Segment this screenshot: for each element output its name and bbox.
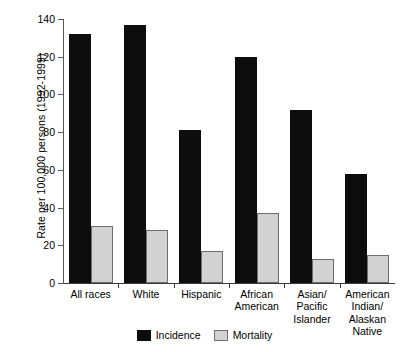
plot-area: 020406080100120140 — [63, 19, 395, 283]
y-tick-mark — [58, 57, 64, 58]
bar-mortality — [91, 226, 113, 283]
bar-incidence — [345, 174, 367, 283]
y-tick-mark — [58, 94, 64, 95]
y-tick-label: 120 — [37, 50, 55, 64]
bar-mortality — [312, 259, 334, 284]
y-tick-label: 40 — [43, 201, 55, 215]
legend-swatch-mortality — [214, 330, 228, 341]
bar-incidence — [179, 130, 201, 283]
y-tick-mark — [58, 19, 64, 20]
bar-mortality — [367, 255, 389, 283]
chart-legend: IncidenceMortality — [0, 329, 409, 341]
bar-mortality — [146, 230, 168, 283]
bar-incidence — [290, 110, 312, 283]
bar-mortality — [257, 213, 279, 283]
x-axis-label: Hispanic — [174, 288, 229, 300]
y-tick-mark — [58, 283, 64, 284]
y-tick-label: 80 — [43, 125, 55, 139]
legend-item-mortality: Mortality — [214, 329, 273, 341]
y-axis-line — [63, 19, 64, 284]
y-tick-mark — [58, 245, 64, 246]
bar-incidence — [69, 34, 91, 283]
x-axis-label: All races — [63, 288, 118, 300]
x-axis-label: Asian/ Pacific Islander — [284, 288, 339, 325]
y-tick-mark — [58, 132, 64, 133]
bar-incidence — [235, 57, 257, 283]
y-tick-label: 20 — [43, 238, 55, 252]
legend-swatch-incidence — [137, 330, 151, 341]
y-tick-label: 0 — [49, 276, 55, 290]
legend-label: Incidence — [156, 329, 201, 341]
bar-incidence — [124, 25, 146, 283]
y-tick-label: 60 — [43, 163, 55, 177]
y-tick-label: 100 — [37, 87, 55, 101]
legend-label: Mortality — [233, 329, 273, 341]
y-tick-mark — [58, 208, 64, 209]
x-axis-label: White — [118, 288, 173, 300]
bar-mortality — [201, 251, 223, 283]
bar-chart: Rate per 100,000 persons (1992-1999) 020… — [0, 0, 409, 352]
y-tick-mark — [58, 170, 64, 171]
legend-item-incidence: Incidence — [137, 329, 201, 341]
x-axis-label: African American — [229, 288, 284, 313]
y-tick-label: 140 — [37, 12, 55, 26]
